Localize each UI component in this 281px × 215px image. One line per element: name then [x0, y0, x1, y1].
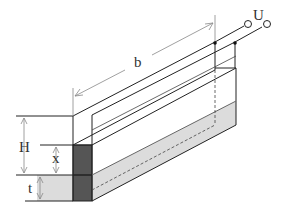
level-sensor-diagram: b U H x t: [0, 0, 281, 215]
label-b: b: [134, 54, 142, 70]
dielectric-block: [73, 145, 92, 201]
terminal-node-left: [213, 41, 217, 45]
terminal-left: [245, 21, 252, 28]
liquid-front-left-fill: [37, 175, 73, 201]
label-x: x: [52, 150, 60, 166]
label-H: H: [19, 139, 30, 155]
label-t: t: [28, 180, 33, 196]
terminal-wires: [215, 26, 262, 42]
terminal-node-right: [233, 41, 237, 45]
liquid-side-fill: [92, 101, 236, 201]
terminal-right: [264, 21, 271, 28]
label-U: U: [253, 7, 264, 23]
